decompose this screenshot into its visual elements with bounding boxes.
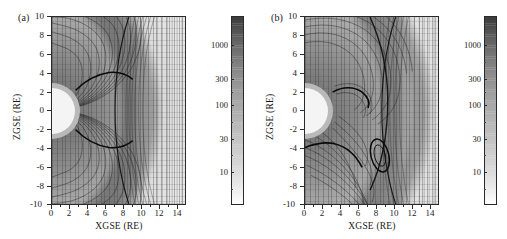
panel-a-ytick-m6 (47, 167, 51, 168)
panel-b-ytick-6 (300, 54, 304, 55)
panel-a-cbar-tick-100 (231, 105, 234, 106)
panel-b-ylabel-2: 2 (273, 87, 297, 97)
panel-a-x-axis-title: XGSE (RE) (29, 221, 209, 231)
panel-b-xtick-minor (385, 205, 386, 207)
panel-b-ylabel-0: 0 (273, 105, 297, 115)
panel-b-cbar-label-100: 100 (451, 100, 481, 110)
panel-a-cbar-label-10: 10 (198, 167, 228, 177)
panel-b-ylabel-m10: -10 (271, 199, 295, 209)
panel-a-xtick-minor (78, 205, 79, 207)
panel-b-y-axis-title: ZGSE (RE) (265, 94, 275, 140)
panel-b-ylabel-6: 6 (273, 49, 297, 59)
panel-b-cbar-tick-30 (484, 139, 487, 140)
panel-a-cbar-tick-minor (231, 62, 233, 63)
panel-a-xtick-minor (60, 205, 61, 207)
panel-a-ytick-0 (47, 110, 51, 111)
panel-a-ylabel-m6: -6 (20, 162, 44, 172)
panel-a-xtick-minor (96, 205, 97, 207)
panel-b-ytick-m10 (300, 204, 304, 205)
panel-a-xtick-minor (150, 205, 151, 207)
panel-b-ylabel-m4: -4 (273, 143, 297, 153)
panel-b-cbar-tick-minor (484, 92, 486, 93)
panel-b-ytick-10 (300, 16, 304, 17)
panel-a: (a) (0, 0, 253, 239)
panel-a-xtick-minor (132, 205, 133, 207)
panel-b-xtick-minor (349, 205, 350, 207)
panel-b-ytick-m6 (300, 167, 304, 168)
panel-b-ylabel-m2: -2 (273, 124, 297, 134)
panel-a-cbar-tick-minor (231, 189, 233, 190)
panel-b-xtick-minor (403, 205, 404, 207)
panel-a-ytick-6 (47, 54, 51, 55)
panel-b-cbar-tick-minor (484, 62, 486, 63)
panel-b: (b) (253, 0, 506, 239)
panel-a-ylabel-10: 10 (20, 11, 44, 21)
panel-a-ytick-4 (47, 73, 51, 74)
panel-a-ytick-10 (47, 16, 51, 17)
panel-a-cbar-tick-minor (231, 155, 233, 156)
panel-b-cbar-tick-100 (484, 105, 487, 106)
panel-b-ytick-4 (300, 73, 304, 74)
panel-b-ytick-2 (300, 92, 304, 93)
panel-b-cbar-tick-1000 (484, 45, 487, 46)
panel-b-ylabel-8: 8 (273, 30, 297, 40)
panel-b-ytick-8 (300, 35, 304, 36)
panel-a-cbar-tick-10 (231, 172, 234, 173)
panel-a-ylabel-4: 4 (20, 68, 44, 78)
panel-b-x-axis-title: XGSE (RE) (282, 221, 462, 231)
panel-b-cbar-tick-300 (484, 79, 487, 80)
panel-a-xtick-minor (114, 205, 115, 207)
panel-a-plot-area (51, 16, 186, 205)
panel-b-cbar-label-300: 300 (451, 74, 481, 84)
panel-b-ytick-0 (300, 110, 304, 111)
panel-b-cbar-tick-minor (484, 122, 486, 123)
panel-a-xlabel-14: 14 (165, 208, 189, 218)
panel-a-cbar-tick-300 (231, 79, 234, 80)
panel-a-cbar-tick-minor (231, 122, 233, 123)
panel-b-cbar-tick-10 (484, 172, 487, 173)
panel-b-plot-area (304, 16, 439, 205)
panel-a-ytick-m10 (47, 204, 51, 205)
panel-a-ylabel-m2: -2 (20, 124, 44, 134)
panel-b-cbar-label-1000: 1000 (451, 40, 481, 50)
panel-b-xtick-minor (421, 205, 422, 207)
panel-a-ytick-m2 (47, 129, 51, 130)
panel-a-ylabel-m10: -10 (18, 199, 42, 209)
panel-b-cbar-label-30: 30 (451, 134, 481, 144)
panel-b-cbar-tick-minor (484, 189, 486, 190)
panel-a-ytick-m4 (47, 148, 51, 149)
panel-a-cbar-label-100: 100 (198, 100, 228, 110)
panel-b-ylabel-m6: -6 (273, 162, 297, 172)
panel-b-xtick-minor (313, 205, 314, 207)
panel-a-ylabel-2: 2 (20, 87, 44, 97)
panel-a-ylabel-0: 0 (20, 105, 44, 115)
panel-a-ylabel-m4: -4 (20, 143, 44, 153)
panel-a-xtick-minor (168, 205, 169, 207)
panel-a-ytick-8 (47, 35, 51, 36)
panel-b-xtick-minor (367, 205, 368, 207)
panel-a-cbar-tick-minor (231, 92, 233, 93)
panel-b-xlabel-14: 14 (418, 208, 442, 218)
panel-a-cbar-tick-1000 (231, 45, 234, 46)
panel-a-ytick-m8 (47, 186, 51, 187)
panel-b-ytick-m4 (300, 148, 304, 149)
panel-a-cbar-label-1000: 1000 (198, 40, 228, 50)
panel-a-ylabel-6: 6 (20, 49, 44, 59)
panel-b-ylabel-4: 4 (273, 68, 297, 78)
panel-b-xtick-minor (331, 205, 332, 207)
panel-b-cbar-label-10: 10 (451, 167, 481, 177)
panel-b-ytick-m2 (300, 129, 304, 130)
figure-canvas: (a) (0, 0, 507, 239)
panel-a-cbar-label-30: 30 (198, 134, 228, 144)
panel-a-ytick-2 (47, 92, 51, 93)
panel-a-cbar-label-300: 300 (198, 74, 228, 84)
panel-b-ylabel-m8: -8 (273, 181, 297, 191)
panel-b-ytick-m8 (300, 186, 304, 187)
panel-b-cbar-tick-minor (484, 155, 486, 156)
panel-a-cbar-tick-30 (231, 139, 234, 140)
panel-a-y-axis-title: ZGSE (RE) (12, 94, 22, 140)
panel-a-ylabel-8: 8 (20, 30, 44, 40)
panel-a-ylabel-m8: -8 (20, 181, 44, 191)
panel-b-ylabel-10: 10 (273, 11, 297, 21)
